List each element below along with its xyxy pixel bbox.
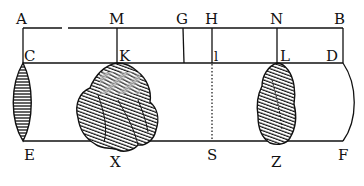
stone-X-shade (100, 72, 140, 94)
label-A: A (15, 10, 27, 28)
label-X: X (110, 153, 121, 171)
vertical-G (183, 28, 184, 63)
label-E: E (24, 146, 35, 164)
diagram: A M G H N B C K l L D E X S Z F (0, 0, 364, 186)
label-Z: Z (271, 153, 281, 171)
label-F: F (338, 146, 348, 164)
label-I: l (214, 49, 218, 64)
label-B: B (334, 10, 345, 28)
label-K: K (119, 47, 131, 65)
arc-DF (343, 63, 354, 141)
label-M: M (109, 10, 124, 28)
label-G: G (176, 10, 188, 28)
label-H: H (205, 10, 218, 28)
stone-Z (257, 63, 295, 144)
lens-CE (13, 63, 31, 141)
label-S: S (207, 146, 217, 164)
label-D: D (326, 47, 338, 65)
label-C: C (24, 47, 35, 65)
label-N: N (270, 10, 283, 28)
label-L: L (280, 47, 290, 65)
